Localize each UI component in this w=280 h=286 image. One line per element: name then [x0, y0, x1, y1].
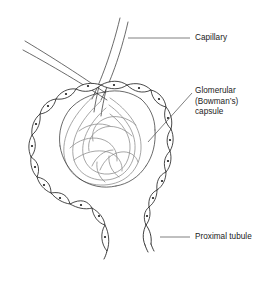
label-proximal-tubule: Proximal tubule: [195, 232, 252, 243]
label-glomerular-line3: capsule: [195, 107, 238, 118]
figure-background: [0, 0, 280, 286]
renal-corpuscle-figure: .ink { fill:none; stroke:#1a1a1a; stroke…: [0, 0, 280, 286]
label-proximal-text: Proximal tubule: [195, 232, 252, 243]
nephron-diagram: .ink { fill:none; stroke:#1a1a1a; stroke…: [0, 0, 280, 286]
label-glomerular-capsule: Glomerular (Bowman’s) capsule: [195, 86, 238, 118]
label-capillary: Capillary: [195, 33, 227, 44]
label-capillary-text: Capillary: [195, 33, 227, 44]
label-glomerular-line1: Glomerular: [195, 86, 238, 97]
label-glomerular-line2: (Bowman’s): [195, 97, 238, 108]
